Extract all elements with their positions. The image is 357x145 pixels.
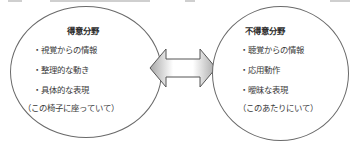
weaknesses-item: ・応用動作	[240, 66, 280, 74]
weaknesses-title: 不得意分野	[245, 27, 285, 35]
strengths-example: （この椅子に座っていて）	[23, 104, 119, 112]
strengths-item: ・整理的な動き	[33, 66, 89, 74]
strengths-title: 得意分野	[67, 27, 99, 35]
strengths-item: ・視覚からの情報	[33, 46, 97, 54]
strengths-item: ・具体的な表現	[33, 86, 89, 94]
weaknesses-item: ・曖昧な表現	[240, 86, 288, 94]
double-arrow-icon	[148, 46, 218, 90]
diagram-canvas: 得意分野 ・視覚からの情報 ・整理的な動き ・具体的な表現 （この椅子に座ってい…	[0, 0, 357, 145]
weaknesses-example: （このあたりにいて）	[238, 104, 318, 112]
cropped-header-remnant	[0, 0, 357, 3]
weaknesses-item: ・聴覚からの情報	[240, 46, 304, 54]
